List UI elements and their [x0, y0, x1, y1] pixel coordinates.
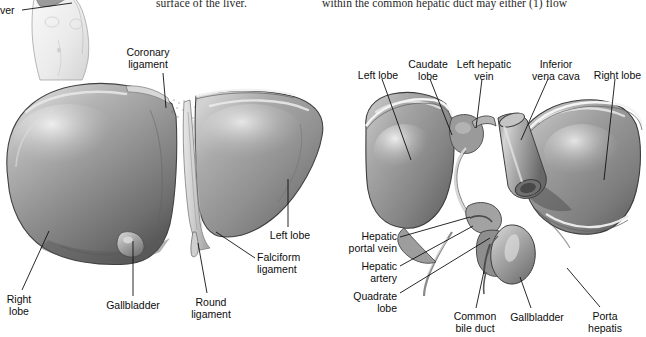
label-left-lobe-anterior: Left lobe	[262, 230, 318, 242]
body-text-left-column: surface of the liver.	[156, 0, 247, 9]
leader-common-bile-duct	[476, 271, 484, 308]
label-inferior-vena-cava: Inferior vena cava	[524, 59, 588, 82]
label-falciform-ligament: Falciform ligament	[257, 252, 300, 275]
label-gallbladder-anterior: Gallbladder	[100, 300, 166, 312]
label-coronary-ligament: Coronary ligament	[118, 47, 178, 70]
label-hepatic-portal-vein: Hepatic portal vein	[327, 231, 397, 254]
label-right-lobe-posterior: Right lobe	[589, 70, 646, 82]
label-right-lobe-anterior: Right lobe	[0, 294, 38, 317]
label-porta-hepatis: Porta hepatis	[581, 311, 629, 334]
label-hepatic-artery: Hepatic artery	[337, 261, 397, 284]
right-liver-posteroinferior-view	[366, 92, 642, 296]
porta-hepatis-structures	[466, 203, 535, 294]
label-gallbladder-posterior: Gallbladder	[504, 312, 570, 324]
label-round-ligament: Round ligament	[183, 297, 239, 320]
label-quadrate-lobe: Quadrate lobe	[337, 291, 397, 314]
label-left-hepatic-vein: Left hepatic vein	[448, 59, 520, 82]
label-left-lobe-posterior: Left lobe	[348, 70, 408, 82]
body-text-right-column: within the common hepatic duct may eithe…	[322, 0, 567, 9]
label-common-bile-duct: Common bile duct	[446, 311, 504, 334]
leader-round-ligament	[198, 243, 207, 293]
torso-inset-illustration	[32, 0, 89, 80]
leader-porta-hepatis	[567, 268, 600, 307]
liver-anatomy-figure: surface of the liver. within the common …	[0, 0, 646, 337]
illustration-artwork	[0, 0, 646, 337]
torso-liver-label: ver	[0, 5, 15, 17]
